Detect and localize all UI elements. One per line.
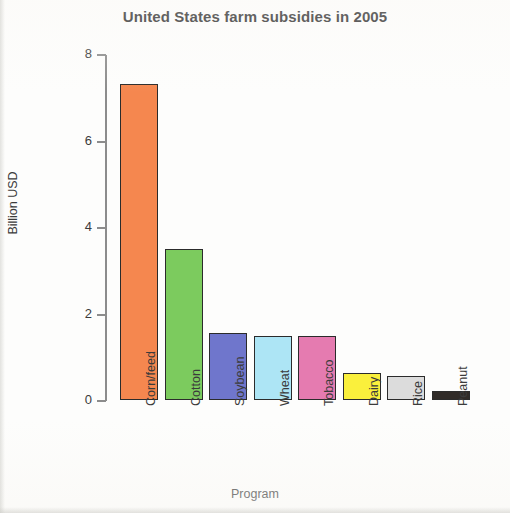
y-tick-label: 6 (68, 134, 92, 147)
y-axis-title: Billion USD (6, 128, 20, 278)
y-tick-label-wrap: 6 (60, 134, 92, 148)
y-tick-label: 0 (68, 393, 92, 406)
x-tick-label-soybean: Soybean (233, 286, 247, 406)
x-tick-label-corn-feed: Corn/feed (144, 286, 158, 406)
chart-title: United States farm subsidies in 2005 (0, 8, 510, 25)
x-axis-title: Program (0, 487, 510, 501)
y-tick-label: 2 (68, 307, 92, 320)
y-tick-label: 4 (68, 220, 92, 233)
y-tick-label-wrap: 8 (60, 47, 92, 61)
x-tick-label-tobacco: Tobacco (322, 286, 336, 406)
y-tick-label: 8 (68, 47, 92, 60)
scan-edge-bottom (0, 507, 510, 513)
y-tick-label-wrap: 2 (60, 307, 92, 321)
y-tick-label-wrap: 4 (60, 220, 92, 234)
x-tick-label-dairy: Dairy (367, 286, 381, 406)
y-tick-mark (97, 400, 106, 402)
scan-edge-left (0, 0, 5, 513)
y-tick-label-wrap: 0 (60, 393, 92, 407)
x-tick-label-cotton: Cotton (189, 286, 203, 406)
y-tick-mark (97, 54, 106, 56)
y-tick-mark (97, 227, 106, 229)
y-tick-mark (97, 314, 106, 316)
chart-figure: United States farm subsidies in 2005 024… (0, 0, 510, 513)
y-tick-mark (97, 141, 106, 143)
x-tick-label-peanut: Peanut (456, 286, 470, 406)
x-tick-label-rice: Rice (411, 286, 425, 406)
x-tick-label-wheat: Wheat (278, 286, 292, 406)
